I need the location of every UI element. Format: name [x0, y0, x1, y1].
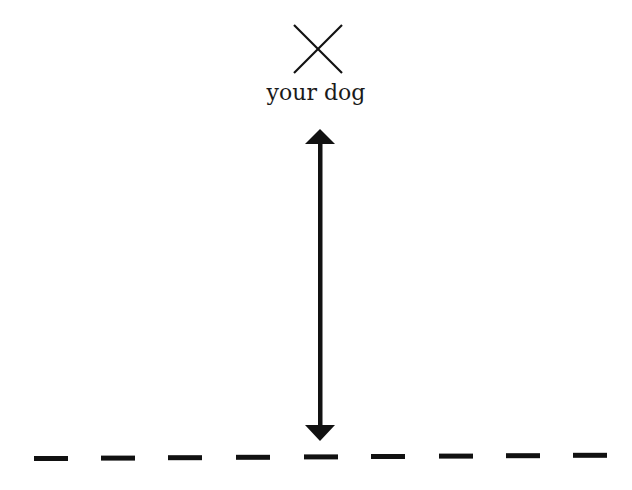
dash-segment [506, 453, 540, 458]
dash-segment [168, 455, 202, 460]
dash-segment [304, 454, 338, 459]
your-dog-label: your dog [0, 80, 632, 105]
dash-segment [236, 455, 270, 460]
arrow-up-head-icon [305, 129, 335, 144]
diagram-canvas: your dog [0, 0, 632, 490]
dash-segment [573, 453, 607, 458]
double-arrow [305, 129, 335, 441]
dash-segment [439, 454, 473, 459]
dashed-baseline [34, 453, 607, 461]
dash-segment [371, 454, 405, 459]
dash-segment [34, 456, 68, 461]
x-mark-icon [294, 25, 342, 73]
dash-segment [101, 456, 135, 461]
arrow-down-head-icon [305, 425, 335, 441]
